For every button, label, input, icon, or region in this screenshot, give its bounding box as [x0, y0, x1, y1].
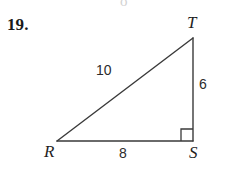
vertex-label-s: S: [189, 143, 198, 163]
side-length-label-vertical-leg: 6: [199, 76, 207, 92]
side-length-label-base: 8: [119, 145, 127, 161]
vertex-label-r: R: [44, 142, 54, 162]
side-length-label-hypotenuse: 10: [96, 62, 112, 78]
vertex-label-t: T: [187, 13, 196, 33]
side-hypotenuse-rt: [57, 38, 193, 141]
right-angle-marker: [181, 129, 193, 141]
figure-page: o 19. T S R 10 6 8: [0, 0, 233, 169]
